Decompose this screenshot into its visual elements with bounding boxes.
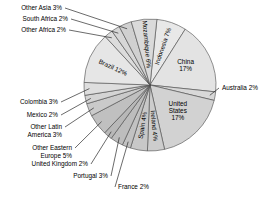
pie-slice-label: United Kingdom 2% bbox=[32, 160, 89, 168]
leader-line bbox=[75, 122, 102, 148]
pie-slice-label: South Africa 2% bbox=[23, 15, 69, 22]
pie-slice-label: Other Africa 2% bbox=[21, 26, 66, 33]
pie-chart-canvas: Indonesia 7%China17%Australia 2%UnitedSt… bbox=[0, 0, 268, 198]
pie-slice-label: France 2% bbox=[118, 183, 149, 190]
leader-line bbox=[91, 132, 111, 164]
leader-line bbox=[111, 137, 119, 176]
pie-slice-label: Other EasternEurope 5% bbox=[32, 144, 72, 160]
leader-line bbox=[69, 30, 112, 38]
pie-slice-label: Other Asia 3% bbox=[21, 4, 62, 11]
pie-slice-label: Australia 2% bbox=[222, 84, 258, 91]
pie-slice-label: China17% bbox=[177, 58, 194, 72]
leader-line bbox=[65, 8, 127, 29]
pie-slice-label: Other LatinAmerica 3% bbox=[28, 123, 63, 138]
pie-slice-label: Mexico 2% bbox=[27, 111, 59, 118]
pie-slice-label: Portugal 3% bbox=[73, 172, 108, 180]
pie-chart: Indonesia 7%China17%Australia 2%UnitedSt… bbox=[0, 0, 268, 198]
leader-line bbox=[71, 19, 118, 33]
pie-slice-label: Colombia 3% bbox=[20, 98, 58, 105]
